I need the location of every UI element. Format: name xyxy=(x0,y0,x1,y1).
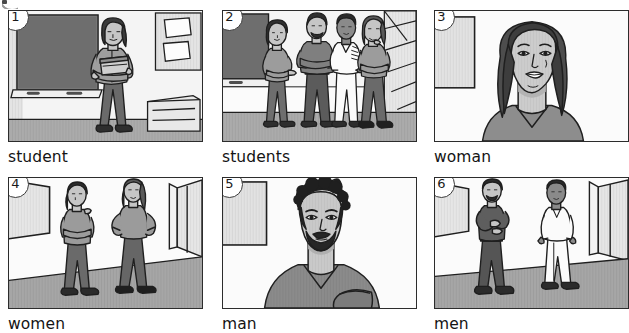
scene-woman xyxy=(435,11,628,141)
panel-caption-6: men xyxy=(434,316,629,333)
panel-cell-4: 4 women xyxy=(8,177,203,333)
panel-cell-5: 5 man xyxy=(222,177,417,333)
scene-students xyxy=(223,11,416,141)
illustration-panel-6[interactable]: 6 xyxy=(434,177,629,309)
panel-cell-2: 2 students xyxy=(222,10,417,166)
panel-caption-3: woman xyxy=(434,149,629,166)
panel-caption-1: student xyxy=(8,149,203,166)
panel-caption-4: women xyxy=(8,316,203,333)
scene-women xyxy=(9,178,202,308)
illustration-panel-3[interactable]: 3 xyxy=(434,10,629,142)
scene-men xyxy=(435,178,628,308)
panel-cell-1: 1 student xyxy=(8,10,203,166)
illustration-panel-2[interactable]: 2 xyxy=(222,10,417,142)
panel-cell-6: 6 men xyxy=(434,177,629,333)
panel-caption-5: man xyxy=(222,316,417,333)
illustration-panel-1[interactable]: 1 xyxy=(8,10,203,142)
illustration-panel-4[interactable]: 4 xyxy=(8,177,203,309)
scene-man xyxy=(223,178,416,308)
illustration-panel-5[interactable]: 5 xyxy=(222,177,417,309)
panel-cell-3: 3 woman xyxy=(434,10,629,166)
panel-caption-2: students xyxy=(222,149,417,166)
scene-student xyxy=(9,11,202,141)
